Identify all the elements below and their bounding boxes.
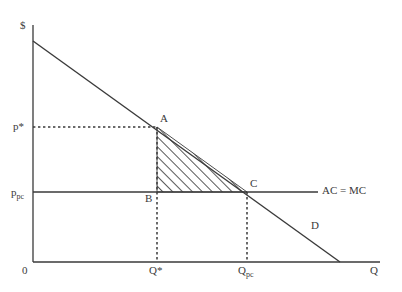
demand-curve <box>33 41 340 262</box>
p-pc-tick-label: ppc <box>11 187 24 201</box>
x-axis-label: Q <box>370 265 378 276</box>
economics-diagram: $ Q 0 p* ppc Q* Qpc A B C D AC = MC <box>0 0 402 292</box>
q-pc-tick-base: Q <box>238 264 246 276</box>
q-pc-tick-sub: pc <box>246 270 254 279</box>
point-c-label: C <box>250 178 257 189</box>
point-a-label: A <box>160 113 168 124</box>
ac-mc-curve-label: AC = MC <box>322 185 366 196</box>
diagram-canvas <box>0 0 402 292</box>
point-b-label: B <box>145 193 152 204</box>
p-star-tick-label: p* <box>13 121 24 132</box>
origin-label: 0 <box>22 265 28 276</box>
demand-curve-label: D <box>311 220 319 231</box>
p-pc-tick-sub: pc <box>17 192 25 201</box>
y-axis-label: $ <box>20 20 26 31</box>
q-star-tick-label: Q* <box>149 265 162 276</box>
q-pc-tick-label: Qpc <box>238 265 254 279</box>
